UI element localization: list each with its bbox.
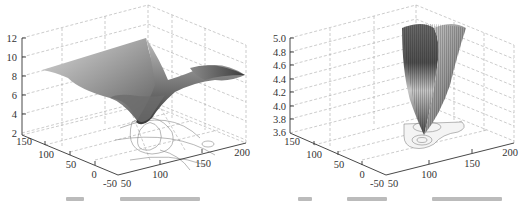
x-tick: 50: [388, 178, 399, 189]
y-tick: 100: [306, 149, 322, 160]
x-tick: 200: [234, 147, 250, 158]
right-figure-caption: [292, 191, 512, 204]
y-tick: 150: [284, 136, 300, 147]
x-tick: 150: [195, 158, 211, 169]
x-axis-ticks: 50 100 150 200: [121, 147, 250, 189]
x-tick: 100: [421, 169, 437, 180]
x-tick: 100: [152, 169, 168, 180]
y-tick: 0: [91, 169, 96, 180]
right-plot-canvas: 5.0 4.8 4.6 4.4 4.2 4.0 3.8 3.6 150 100 …: [262, 0, 524, 204]
y-tick: 100: [38, 149, 54, 160]
z-tick: 3.8: [273, 114, 286, 125]
y-tick: 150: [16, 136, 32, 147]
left-plot-canvas: 12 10 8 6 4 2 150 100 50 0 -50 50 100 15…: [0, 0, 262, 204]
y-tick: -50: [103, 178, 117, 189]
right-surface-plot: 5.0 4.8 4.6 4.4 4.2 4.0 3.8 3.6 150 100 …: [262, 0, 524, 204]
z-tick: 5.0: [273, 33, 286, 44]
z-tick: 12: [7, 33, 18, 44]
z-tick: 6: [12, 90, 17, 101]
z-tick: 4.8: [273, 47, 286, 58]
z-tick: 8: [12, 71, 17, 82]
y-tick: 50: [66, 159, 77, 170]
left-surface-plot: 12 10 8 6 4 2 150 100 50 0 -50 50 100 15…: [0, 0, 262, 204]
y-tick: 0: [359, 169, 364, 180]
x-axis-ticks: 50 100 150 200: [388, 147, 518, 189]
z-tick: 4: [12, 109, 18, 120]
z-tick: 4.0: [273, 101, 286, 112]
surface-mesh: [402, 24, 466, 135]
y-tick: -50: [370, 178, 384, 189]
z-tick: 4.4: [273, 74, 287, 85]
z-axis-ticks: 5.0 4.8 4.6 4.4 4.2 4.0 3.8 3.6: [273, 33, 287, 138]
contour-projection: [404, 122, 464, 149]
x-tick: 150: [464, 158, 480, 169]
x-tick: 50: [121, 178, 132, 189]
x-tick: 200: [502, 147, 518, 158]
z-tick: 4.6: [273, 60, 286, 71]
z-tick: 10: [7, 52, 18, 63]
z-axis-ticks: 12 10 8 6 4 2: [7, 33, 18, 139]
axes: [290, 38, 514, 175]
left-figure-caption: [60, 191, 200, 204]
y-tick: 50: [334, 159, 345, 170]
z-tick: 4.2: [273, 87, 286, 98]
